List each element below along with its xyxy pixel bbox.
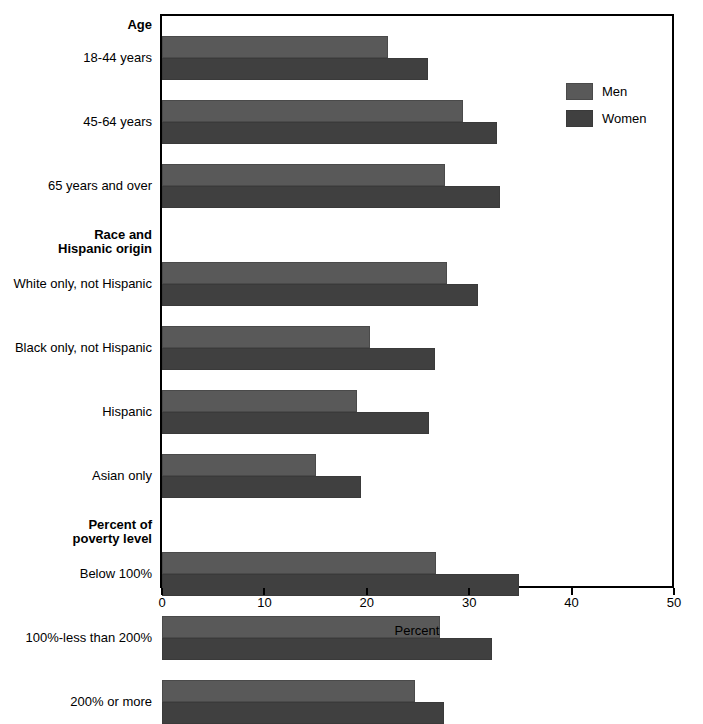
chart-legend: Men Women bbox=[566, 78, 676, 132]
legend-item-women: Women bbox=[566, 105, 676, 132]
bar-women bbox=[162, 348, 435, 370]
section-heading: Age bbox=[0, 18, 160, 32]
x-tick bbox=[161, 588, 163, 595]
bar-women bbox=[162, 186, 500, 208]
bar-men bbox=[162, 390, 357, 412]
x-tick bbox=[468, 588, 470, 595]
legend-label-men: Men bbox=[602, 84, 627, 99]
category-label: 65 years and over bbox=[0, 179, 160, 193]
x-tick-label: 0 bbox=[142, 595, 182, 610]
x-axis-title: Percent bbox=[160, 623, 674, 638]
section-heading: Race and Hispanic origin bbox=[0, 228, 160, 256]
category-label: Black only, not Hispanic bbox=[0, 341, 160, 355]
x-tick-label: 50 bbox=[654, 595, 694, 610]
legend-swatch-women-icon bbox=[566, 110, 593, 127]
x-tick bbox=[366, 588, 368, 595]
x-tick bbox=[263, 588, 265, 595]
category-label: Hispanic bbox=[0, 405, 160, 419]
x-tick-label: 40 bbox=[552, 595, 592, 610]
bar-women bbox=[162, 58, 428, 80]
x-tick-label: 20 bbox=[347, 595, 387, 610]
bar-women bbox=[162, 476, 361, 498]
bar-men bbox=[162, 454, 316, 476]
bar-men bbox=[162, 164, 445, 186]
x-tick bbox=[571, 588, 573, 595]
category-label: Below 100% bbox=[0, 567, 160, 581]
legend-label-women: Women bbox=[602, 111, 647, 126]
bar-women bbox=[162, 412, 429, 434]
category-label: Asian only bbox=[0, 469, 160, 483]
category-label: White only, not Hispanic bbox=[0, 277, 160, 291]
category-label: 18-44 years bbox=[0, 51, 160, 65]
x-tick-label: 10 bbox=[244, 595, 284, 610]
category-labels: Age18-44 years45-64 years65 years and ov… bbox=[0, 0, 160, 648]
category-label: 45-64 years bbox=[0, 115, 160, 129]
x-tick-label: 30 bbox=[449, 595, 489, 610]
legend-item-men: Men bbox=[566, 78, 676, 105]
bar-women bbox=[162, 574, 519, 596]
section-heading: Percent of poverty level bbox=[0, 518, 160, 546]
bar-men bbox=[162, 680, 415, 702]
bar-women bbox=[162, 284, 478, 306]
category-label: 200% or more bbox=[0, 695, 160, 709]
bar-men bbox=[162, 326, 370, 348]
bar-women bbox=[162, 122, 497, 144]
bar-men bbox=[162, 552, 436, 574]
x-tick bbox=[673, 588, 675, 595]
bar-women bbox=[162, 638, 492, 660]
bar-men bbox=[162, 100, 463, 122]
bar-women bbox=[162, 702, 444, 724]
legend-swatch-men-icon bbox=[566, 83, 593, 100]
bar-men bbox=[162, 36, 388, 58]
bar-men bbox=[162, 262, 447, 284]
category-label: 100%-less than 200% bbox=[0, 631, 160, 645]
